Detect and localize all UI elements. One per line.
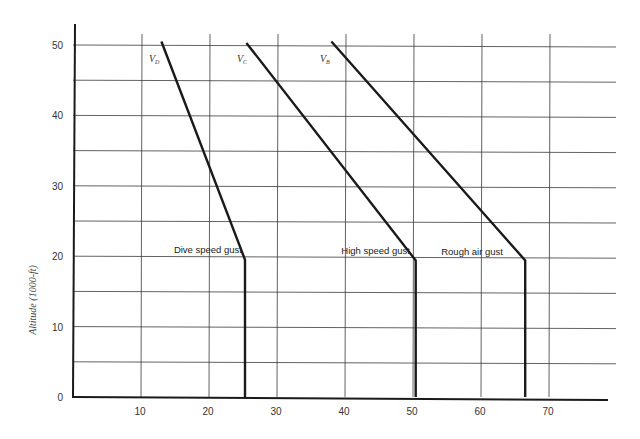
- curve-annotation: Rough air gust: [441, 246, 503, 257]
- h-gridline: [73, 221, 616, 223]
- x-axis: [72, 397, 608, 400]
- x-tick-label: 10: [134, 406, 146, 417]
- grid-lines: [73, 34, 616, 397]
- curve-v-c: [246, 43, 415, 397]
- v-gridline: [481, 34, 482, 397]
- y-tick-label: 40: [52, 110, 64, 121]
- curve-v-d: [161, 42, 245, 398]
- x-tick-label: 60: [474, 406, 486, 417]
- h-gridline: [73, 362, 616, 364]
- h-gridline: [73, 115, 616, 117]
- y-tick-label: 50: [52, 40, 64, 51]
- h-gridline: [73, 80, 616, 82]
- gust-velocity-chart: 10203040506070 01020304050 VDDive speed …: [0, 0, 640, 439]
- v-gridline: [209, 34, 210, 397]
- curve-symbol-label: VB: [320, 53, 330, 65]
- curve-annotation: High speed gust: [341, 245, 410, 256]
- v-gridline: [277, 34, 278, 397]
- v-gridline: [141, 34, 142, 397]
- h-gridline: [73, 291, 616, 293]
- v-gridline: [345, 34, 346, 397]
- curve-v-b: [331, 42, 525, 398]
- y-tick-label: 20: [52, 251, 64, 262]
- x-tick-label: 30: [270, 406, 282, 417]
- x-tick-label: 20: [202, 406, 214, 417]
- y-tick-label: 30: [52, 181, 64, 192]
- x-tick-label: 50: [406, 406, 418, 417]
- curve-symbol-label: VD: [149, 53, 160, 65]
- h-gridline: [73, 45, 616, 47]
- h-gridline: [73, 256, 616, 258]
- curves: [161, 42, 525, 398]
- curve-labels: VDDive speed gustVCHigh speed gustVBRoug…: [149, 53, 503, 257]
- h-gridline: [73, 327, 616, 329]
- y-axis-label: Altitude (1000-ft): [27, 264, 39, 335]
- x-tick-label: 40: [338, 406, 350, 417]
- v-gridline: [413, 34, 414, 397]
- x-tick-labels: 10203040506070: [134, 406, 554, 417]
- h-gridline: [73, 151, 616, 153]
- curve-symbol-label: VC: [237, 53, 248, 65]
- y-tick-label: 10: [52, 322, 64, 333]
- x-tick-label: 70: [542, 406, 554, 417]
- curve-annotation: Dive speed gust: [174, 244, 242, 255]
- y-tick-label: 0: [57, 392, 63, 403]
- h-gridline: [73, 186, 616, 188]
- v-gridline: [549, 34, 550, 397]
- y-tick-labels: 01020304050: [52, 40, 64, 403]
